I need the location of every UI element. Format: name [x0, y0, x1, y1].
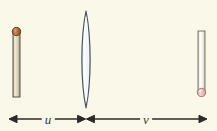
image-distance-arrowhead-left [86, 115, 94, 122]
diagram-canvas [0, 0, 217, 131]
object-distance-arrowhead-left [9, 115, 17, 122]
object-distance-label: u [42, 113, 55, 126]
image-body [198, 31, 205, 93]
object-arrow [12, 27, 20, 97]
image-arrow [197, 31, 205, 97]
image-distance-label: v [140, 113, 152, 126]
image-tip-highlight [199, 90, 202, 93]
converging-lens [82, 11, 90, 108]
lens-body [82, 11, 90, 108]
object-tip-highlight [14, 29, 17, 32]
image-tip [197, 88, 205, 96]
object-distance-arrowhead-right [78, 115, 86, 122]
object-body [13, 33, 20, 97]
object-tip [12, 27, 20, 35]
lens-diagram-figure: u v [0, 0, 217, 131]
image-distance-arrowhead-right [199, 115, 207, 122]
